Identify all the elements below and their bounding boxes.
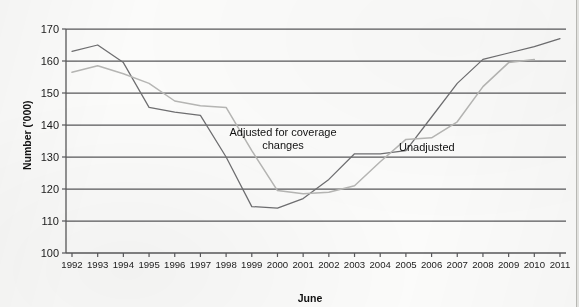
x-axis-tick-label: 2007 [447,259,468,270]
x-axis-tick-label: 2002 [318,259,339,270]
x-axis-tick-label: 2005 [395,259,416,270]
y-axis-tick-label: 170 [41,23,59,35]
y-axis-tick-label: 110 [41,215,59,227]
x-axis-tick-label: 1998 [215,259,236,270]
x-axis-title: June [298,292,323,304]
annotation-adjusted-line2: changes [262,139,304,151]
y-axis-ticks-group: 100110120130140150160170 [41,23,66,259]
x-axis-tick-label: 2010 [524,259,545,270]
x-axis-tick-label: 2011 [550,259,571,270]
y-axis-tick-label: 160 [41,55,59,67]
y-axis-tick-label: 150 [41,87,59,99]
x-axis-tick-label: 2000 [267,259,288,270]
y-axis-tick-label: 140 [41,119,59,131]
x-axis-tick-label: 1995 [138,259,159,270]
series-line-unadjusted [72,39,560,209]
x-axis-tick-label: 1994 [113,259,135,270]
y-axis-tick-label: 100 [41,247,59,259]
annotation-unadjusted: Unadjusted [399,141,455,153]
chart-figure: 100110120130140150160170 199219931994199… [0,0,579,307]
series-group [72,39,560,209]
x-axis-tick-label: 1992 [61,259,82,270]
x-axis-tick-label: 2009 [498,259,519,270]
x-axis-tick-label: 1997 [190,259,211,270]
x-axis-tick-label: 2006 [421,259,442,270]
y-axis-tick-label: 120 [41,183,59,195]
y-axis-tick-label: 130 [41,151,59,163]
x-axis-tick-label: 1999 [241,259,262,270]
x-axis-tick-label: 1993 [87,259,108,270]
x-axis-tick-label: 2001 [292,259,313,270]
x-axis-ticks-group: 1992199319941995199619971998199920002001… [61,253,570,270]
annotation-adjusted-line1: Adjusted for coverage [229,126,336,138]
x-axis-tick-label: 2008 [472,259,493,270]
line-chart: 100110120130140150160170 199219931994199… [0,0,579,307]
page-edge-line [576,0,577,307]
x-axis-tick-label: 2003 [344,259,365,270]
x-axis-tick-label: 1996 [164,259,185,270]
x-axis-tick-label: 2004 [370,259,392,270]
y-axis-title: Number ('000) [21,100,33,170]
